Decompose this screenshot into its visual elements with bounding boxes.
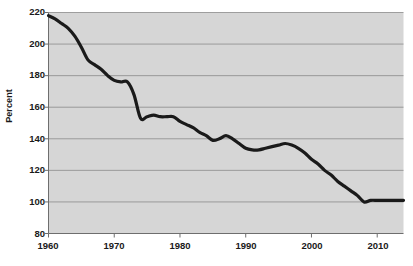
chart-container: Percent 220 200 180 160 140 120 100 80 1… — [0, 0, 413, 266]
plot-area — [0, 0, 413, 266]
plot-background — [49, 13, 404, 234]
